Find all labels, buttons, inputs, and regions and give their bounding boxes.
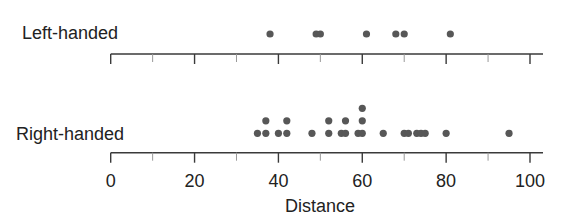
x-tick-labels: 020406080100 [106, 171, 545, 191]
data-dot [359, 130, 366, 137]
data-dot [262, 130, 269, 137]
data-dot [363, 30, 370, 37]
right-handed-axis [111, 153, 543, 163]
data-dot [443, 130, 450, 137]
data-dot [317, 30, 324, 37]
series-label-left-handed: Left-handed [22, 23, 118, 43]
x-tick-label: 40 [268, 171, 288, 191]
data-dot [283, 117, 290, 124]
series-label-right-handed: Right-handed [16, 124, 124, 144]
data-dot [422, 130, 429, 137]
left-handed-axis [111, 54, 543, 64]
data-dot [380, 130, 387, 137]
left-handed-dots [266, 30, 453, 37]
data-dot [325, 117, 332, 124]
data-dot [505, 130, 512, 137]
data-dot [392, 30, 399, 37]
data-dot [254, 130, 261, 137]
dot-plot-chart: Left-handed Right-handed 020406080100 Di… [0, 0, 565, 223]
x-tick-label: 100 [515, 171, 545, 191]
right-handed-dots [254, 105, 513, 137]
data-dot [266, 30, 273, 37]
data-dot [262, 117, 269, 124]
data-dot [325, 130, 332, 137]
data-dot [401, 30, 408, 37]
x-axis-label: Distance [285, 196, 355, 216]
data-dot [275, 130, 282, 137]
data-dot [359, 117, 366, 124]
data-dot [342, 130, 349, 137]
x-tick-label: 60 [352, 171, 372, 191]
data-dot [447, 30, 454, 37]
data-dot [308, 130, 315, 137]
x-tick-label: 0 [106, 171, 116, 191]
x-tick-label: 20 [185, 171, 205, 191]
data-dot [359, 105, 366, 112]
data-dot [342, 117, 349, 124]
data-dot [283, 130, 290, 137]
x-tick-label: 80 [436, 171, 456, 191]
data-dot [405, 130, 412, 137]
